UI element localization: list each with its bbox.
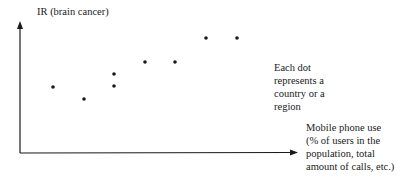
- annotation-line: country or a: [274, 87, 325, 100]
- x-axis-label-line: Mobile phone use: [306, 121, 394, 134]
- data-points: [51, 36, 239, 101]
- annotation-line: represents a: [274, 74, 325, 87]
- x-axis: [20, 153, 292, 154]
- data-point: [173, 60, 177, 64]
- data-point: [51, 85, 55, 89]
- data-point: [143, 60, 147, 64]
- annotation-line: region: [274, 100, 325, 113]
- x-axis-label-line: (% of users in the: [306, 134, 394, 147]
- y-axis-arrowhead-icon: [17, 21, 23, 29]
- x-axis-arrowhead-icon: [290, 150, 298, 156]
- data-point: [112, 72, 116, 76]
- data-point: [235, 36, 239, 40]
- x-axis-label: Mobile phone use (% of users in the popu…: [306, 121, 394, 173]
- annotation-note: Each dot represents a country or a regio…: [274, 61, 325, 113]
- y-axis-label: IR (brain cancer): [37, 5, 109, 18]
- annotation-line: Each dot: [274, 61, 325, 74]
- x-axis-label-line: amount of calls, etc.): [306, 160, 394, 173]
- x-axis-label-line: population, total: [306, 147, 394, 160]
- data-point: [204, 36, 208, 40]
- data-point: [112, 84, 116, 88]
- data-point: [82, 97, 86, 101]
